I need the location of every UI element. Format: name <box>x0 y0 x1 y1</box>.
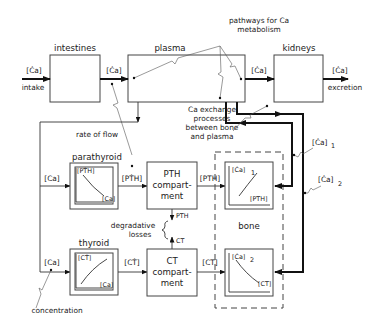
ca2-top-arrowhead <box>275 111 283 117</box>
thyroid-y-label: [CṪ] <box>78 254 91 262</box>
bone-lower-y-label: [Ċa] <box>232 253 245 261</box>
degradative-label-line2: losses <box>129 230 152 239</box>
plasma-box <box>128 55 245 102</box>
parathyroid-x-label: [Ca] <box>102 195 115 203</box>
intestines-label: intestines <box>54 43 96 53</box>
parathyroid-label: parathyroid <box>72 152 122 162</box>
plasma-out-rate-label: [Ċa] <box>251 66 267 75</box>
ct-comp-line3: ment <box>161 278 184 288</box>
kidneys-box <box>274 55 323 102</box>
ca-to-parathyroid-label: [Ca] <box>44 174 60 183</box>
intestines-box <box>50 55 100 102</box>
excretion-rate-label: [Ċa] <box>332 66 348 75</box>
pth-to-bone-label: [PTH] <box>200 174 220 183</box>
ct-comp-line1: CT <box>166 256 178 266</box>
bone-label: bone <box>238 221 259 231</box>
thyroid-x-label: [Ca] <box>100 281 113 289</box>
ca1-sub: 1 <box>331 142 335 150</box>
exchange-label-line2: processes <box>194 114 231 123</box>
ca2-label: [Ċa] <box>318 175 334 184</box>
exchange-label-line4: and plasma <box>190 132 233 141</box>
pth-comp-line1: PTH <box>164 169 181 179</box>
pth-comp-line3: ment <box>161 191 184 201</box>
bone-lower-x-label: [CT] <box>258 280 271 288</box>
exchange-label-line1: Ca exchange <box>188 105 236 114</box>
ct-comp-line2: compart- <box>152 267 191 277</box>
intake-rate-label: [Ċa] <box>26 66 42 75</box>
rate-of-flow-label: rate of flow <box>76 130 118 139</box>
pathways-label-line1: pathways for Ca <box>229 16 289 25</box>
pathways-label-line2: metabolism <box>237 25 281 34</box>
bone-upper-x-label: [PTH] <box>250 195 268 203</box>
bone-upper-y-label: [Ċa] <box>232 166 245 174</box>
intestine-out-rate-label: [Ċa] <box>106 66 122 75</box>
ca1-label: [Ċa] <box>312 138 328 147</box>
ct-loss-label: CT <box>176 237 184 245</box>
excretion-label: excretion <box>328 83 363 92</box>
degradative-brace <box>162 221 168 239</box>
pth-loss-label: PTH <box>176 212 189 220</box>
exchange-label-line3: between bone <box>186 123 239 132</box>
pth-rate-label: [PṪH] <box>122 174 142 183</box>
concentration-label: concentration <box>31 306 83 315</box>
ca-to-thyroid-label: [Ca] <box>44 258 60 267</box>
pth-comp-line2: compart- <box>152 180 191 190</box>
bone-lower-y-sub: 2 <box>250 256 254 264</box>
parathyroid-y-label: [PṪH] <box>77 167 95 175</box>
bone-upper-y-sub: 1 <box>251 169 255 177</box>
ca2-sub: 2 <box>338 180 342 188</box>
plasma-label: plasma <box>154 43 185 53</box>
thyroid-label: thyroid <box>79 238 109 248</box>
concentration-pointer <box>36 270 51 308</box>
degradative-label-line1: degradative <box>111 221 156 230</box>
intake-label: intake <box>22 83 45 92</box>
ct-rate-label: [CṪ] <box>124 258 140 267</box>
ca2-pointer <box>305 186 321 193</box>
calcium-metabolism-diagram: pathways for Ca metabolism intestines pl… <box>0 0 380 329</box>
kidneys-label: kidneys <box>282 43 316 53</box>
